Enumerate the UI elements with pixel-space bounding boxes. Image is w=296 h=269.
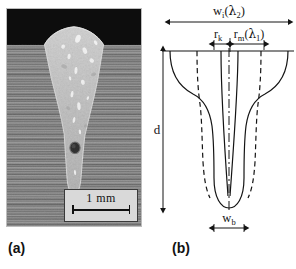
panel-a-caption: (a) [8,240,25,256]
dimension-bottom-width: wb [214,211,244,232]
scale-bar-line [72,209,130,211]
weld-pool-outline-left [170,51,214,178]
panel-b-schematic: wi(λ2) rk rm(λ1) [148,0,296,236]
dimension-depth: d [154,51,163,208]
panel-b-caption: (b) [172,240,190,256]
label-top-width-lambda: λ [229,3,237,18]
weld-pool-outline-right [244,51,288,178]
label-melt-radius-paren-close: ) [260,27,264,41]
label-bottom-width-sub: b [231,217,235,227]
dimension-top-width: wi(λ2) [170,3,288,22]
keyhole-outline-left [221,51,228,196]
panel-a-micrograph: 1 mm [6,8,142,227]
dimension-keyhole-radius: rk [214,27,229,44]
label-keyhole-radius: rk [214,27,223,43]
label-bottom-width: wb [222,211,235,227]
label-melt-radius: rm(λ1) [234,27,264,43]
label-depth: d [154,122,161,137]
label-top-width-paren-close: ) [241,4,245,18]
alternate-profile-right-dashed [248,51,261,198]
alternate-profile-left-dashed [197,51,210,198]
label-top-width-symbol: w [213,4,222,18]
label-keyhole-radius-sub: k [218,33,223,43]
keyhole-outline-right [230,51,238,196]
figure-container: 1 mm wi(λ2) [0,0,296,269]
scale-bar-label: 1 mm [65,191,137,206]
label-bottom-width-symbol: w [222,211,231,225]
scale-bar: 1 mm [64,189,138,222]
dimension-melt-radius: rm(λ1) [231,27,264,44]
weld-geometry-schematic: wi(λ2) rk rm(λ1) [148,0,296,236]
scale-bar-rule [72,205,130,214]
label-top-width: wi(λ2) [213,3,245,20]
